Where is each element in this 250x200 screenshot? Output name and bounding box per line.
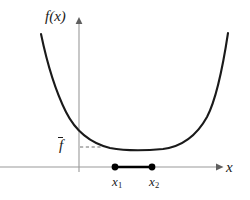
fbar-letter: f bbox=[58, 138, 64, 153]
function-curve bbox=[41, 33, 228, 150]
y-axis-label: f(x) bbox=[45, 9, 66, 24]
x1-tick-label: x1 bbox=[112, 175, 122, 188]
fbar-value-label: f bbox=[58, 138, 64, 153]
convex-function-figure: f(x) x f x1 x2 bbox=[0, 0, 250, 200]
arrow-up-icon bbox=[76, 17, 83, 24]
x-axis-label: x bbox=[226, 160, 233, 175]
x1-letter: x bbox=[112, 174, 118, 189]
x1-subscript: 1 bbox=[118, 180, 122, 190]
x2-letter: x bbox=[149, 174, 155, 189]
x2-tick-label: x2 bbox=[149, 175, 159, 188]
arrow-right-icon bbox=[216, 163, 224, 170]
filled-dot-icon-x1 bbox=[112, 164, 119, 171]
filled-dot-icon-x2 bbox=[149, 164, 156, 171]
x2-subscript: 2 bbox=[155, 180, 159, 190]
plot-canvas bbox=[0, 0, 250, 200]
